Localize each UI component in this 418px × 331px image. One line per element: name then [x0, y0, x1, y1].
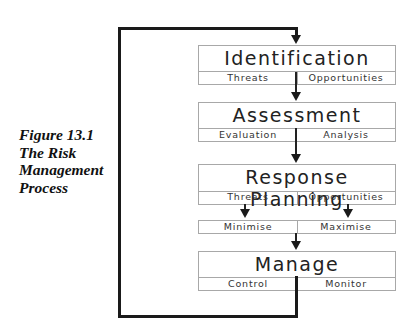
- loop-left-line: [118, 27, 121, 318]
- stage-sub-left: Control: [199, 278, 297, 289]
- stage-title: Identification: [199, 47, 395, 69]
- arrow-down-icon: [343, 209, 353, 218]
- connector-line: [295, 128, 297, 156]
- loop-entry-arrow-icon: [291, 35, 301, 44]
- caption-title-line1: The Risk: [19, 144, 103, 162]
- response-outcomes: Minimise Maximise: [198, 220, 396, 234]
- outcome-maximise: Maximise: [297, 221, 395, 232]
- loop-bottom-line: [118, 315, 298, 318]
- loop-top-line: [118, 27, 298, 30]
- stage-sub-right: Monitor: [297, 278, 395, 289]
- stage-sub-left: Evaluation: [199, 129, 297, 140]
- stage-title: Assessment: [199, 104, 395, 126]
- figure-caption: Figure 13.1 The Risk Management Process: [19, 126, 103, 196]
- stage-sub-left: Threats: [199, 72, 297, 83]
- stage-sub-right: Opportunities: [297, 191, 395, 202]
- loop-return-line-overlay: [295, 276, 298, 318]
- arrow-down-icon: [291, 154, 301, 163]
- stage-sub-right: Analysis: [297, 129, 395, 140]
- stage-assessment: Assessment Evaluation Analysis: [198, 102, 396, 142]
- stage-sub-right: Opportunities: [297, 72, 395, 83]
- arrow-down-icon: [291, 92, 301, 101]
- stage-title: Manage: [199, 253, 395, 275]
- caption-figure-number: Figure 13.1: [19, 126, 103, 144]
- caption-title-line3: Process: [19, 179, 103, 197]
- arrow-down-icon: [291, 241, 301, 250]
- stage-sub-left: Threats: [199, 191, 297, 202]
- stage-response-planning: Response Planning Threats Opportunities: [198, 164, 396, 205]
- caption-title-line2: Management: [19, 161, 103, 179]
- arrow-down-icon: [240, 209, 250, 218]
- outcome-minimise: Minimise: [199, 221, 297, 232]
- stage-identification: Identification Threats Opportunities: [198, 45, 396, 85]
